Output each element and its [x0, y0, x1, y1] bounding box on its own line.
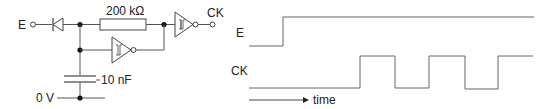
- capacitor-label: 10 nF: [101, 73, 132, 87]
- ground-label: 0 V: [36, 91, 54, 105]
- circuit-schematic: E 200 kΩ CK: [18, 4, 224, 105]
- resistor-icon: [100, 19, 146, 30]
- time-axis-label: time: [313, 93, 336, 107]
- resistor-label: 200 kΩ: [106, 4, 144, 18]
- diode-icon: [53, 18, 63, 31]
- signal-ck-trace: [249, 56, 533, 89]
- signal-e-trace: [249, 17, 534, 46]
- arrowhead-icon: [303, 97, 309, 103]
- capacitor-icon: [64, 76, 96, 82]
- output-terminal-icon: [210, 22, 215, 27]
- input-terminal-icon: [31, 22, 36, 27]
- output-label-ck: CK: [207, 6, 224, 20]
- input-label-e: E: [18, 18, 26, 32]
- circuit-and-timing-diagram: E 200 kΩ CK: [0, 0, 550, 109]
- timing-diagram: E CK time: [231, 17, 534, 107]
- schmitt-inverter-output-icon: [175, 12, 198, 37]
- signal-label-ck: CK: [231, 64, 248, 78]
- schmitt-inverter-feedback-icon: [112, 37, 136, 63]
- junction-dot: [77, 95, 82, 100]
- signal-label-e: E: [236, 26, 244, 40]
